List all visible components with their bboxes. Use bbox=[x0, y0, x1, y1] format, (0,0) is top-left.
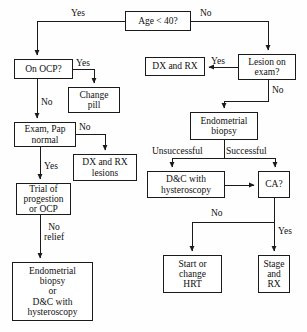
edge-ocp-yes bbox=[73, 69, 94, 83]
edge-exam-no bbox=[76, 134, 105, 150]
node-dx-rx-lesions[interactable]: DX and RX lesions bbox=[73, 154, 137, 181]
node-exam-pap-normal[interactable]: Exam, Pap normal bbox=[14, 122, 76, 147]
node-ca-check[interactable]: CA? bbox=[258, 171, 290, 198]
node-age-check[interactable]: Age < 40? bbox=[125, 11, 191, 31]
edge-label-lesion-no: No bbox=[272, 85, 284, 95]
edge-label-ca-no: No bbox=[211, 208, 223, 218]
node-trial-progestion[interactable]: Trial of progestion or OCP bbox=[16, 183, 71, 215]
edge-label-age-no: No bbox=[200, 8, 212, 18]
node-stage-and-rx[interactable]: Stage and RX bbox=[258, 255, 290, 293]
edge-label-successful: Successful bbox=[226, 146, 267, 156]
node-on-ocp[interactable]: On OCP? bbox=[14, 59, 73, 79]
node-start-or-change-hrt[interactable]: Start or change HRT bbox=[163, 255, 222, 293]
edge-label-ocp-no: No bbox=[41, 97, 53, 107]
edge-label-exam-yes: Yes bbox=[44, 161, 58, 171]
node-dc-with-hysteroscopy[interactable]: D&C with hysteroscopy bbox=[147, 171, 225, 198]
node-dx-and-rx[interactable]: DX and RX bbox=[145, 57, 205, 76]
edge-label-unsuccessful: Unsuccessful bbox=[152, 146, 203, 156]
edge-label-ocp-yes: Yes bbox=[76, 58, 90, 68]
node-lesion-on-exam[interactable]: Lesion on exam? bbox=[238, 54, 296, 80]
flowchart-canvas: Age < 40? On OCP? Change pill Exam, Pap … bbox=[0, 0, 307, 332]
edge-label-age-yes: Yes bbox=[71, 8, 85, 18]
edge-lesion-no bbox=[224, 80, 268, 108]
node-endometrial-biopsy-or-dc[interactable]: Endometrial biopsy or D&C with hysterosc… bbox=[12, 262, 93, 321]
node-change-pill[interactable]: Change pill bbox=[68, 87, 120, 113]
edge-age-no bbox=[191, 21, 268, 50]
edge-label-exam-no: No bbox=[79, 122, 91, 132]
edge-label-no-relief: No relief bbox=[44, 222, 64, 242]
node-endometrial-biopsy[interactable]: Endometrial biopsy bbox=[190, 112, 258, 140]
edge-label-ca-yes: Yes bbox=[278, 226, 292, 236]
edge-age-yes bbox=[37, 21, 125, 55]
edge-label-lesion-yes: Yes bbox=[211, 56, 225, 66]
